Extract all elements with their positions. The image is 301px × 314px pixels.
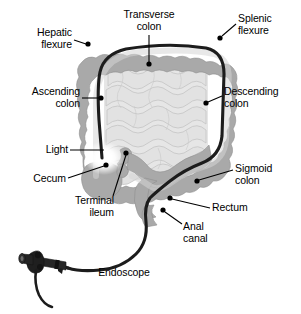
marker-dot-cecum [103, 162, 108, 167]
leader-splenic-flexure [222, 24, 236, 36]
label-terminal-ileum: Terminal ileum [58, 195, 114, 218]
label-light: Light [28, 144, 68, 156]
marker-dot-descending-colon [203, 100, 208, 105]
leader-descending-colon [208, 96, 222, 102]
endoscope-tip-light [84, 141, 124, 175]
label-descending-colon: Descending colon [224, 86, 300, 109]
label-splenic-flexure: Splenic flexure [238, 13, 296, 36]
label-sigmoid-colon: Sigmoid colon [235, 163, 295, 186]
marker-dot-transverse-colon [146, 61, 151, 66]
label-cecum: Cecum [18, 173, 66, 185]
leader-anal-canal [165, 212, 182, 224]
endoscope-handle [19, 251, 68, 307]
label-rectum: Rectum [212, 202, 268, 214]
colonoscopy-diagram: Hepatic flexureTransverse colonSplenic f… [0, 0, 301, 314]
label-hepatic-flexure: Hepatic flexure [10, 27, 72, 50]
marker-dot-splenic-flexure [217, 35, 222, 40]
label-endoscope: Endoscope [86, 267, 162, 279]
leader-hepatic-flexure [74, 40, 86, 44]
marker-dot-terminal-ileum [123, 150, 128, 155]
marker-dot-ascending-colon [98, 95, 103, 100]
label-ascending-colon: Ascending colon [8, 86, 80, 109]
marker-dot-sigmoid-colon [194, 178, 199, 183]
label-anal-canal: Anal canal [183, 221, 227, 244]
marker-dot-anal-canal [160, 207, 165, 212]
label-transverse-colon: Transverse colon [112, 9, 186, 32]
marker-dot-rectum [167, 195, 172, 200]
marker-dot-hepatic-flexure [85, 41, 90, 46]
leader-rectum [172, 199, 210, 208]
